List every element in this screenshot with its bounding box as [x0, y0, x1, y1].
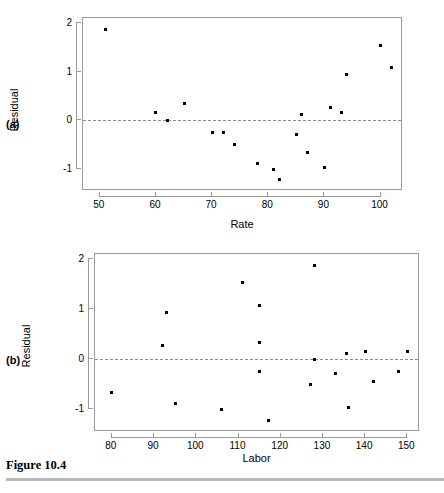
data-point	[295, 133, 298, 136]
panel-b-x-axis-title: Labor	[94, 452, 419, 464]
y-axis-tick-label: 1	[60, 303, 84, 314]
data-point	[397, 370, 400, 373]
y-axis-line	[88, 258, 89, 408]
data-point	[300, 113, 303, 116]
figure-caption: Figure 10.4	[6, 458, 66, 473]
data-point	[220, 408, 223, 411]
y-axis-line	[76, 22, 77, 168]
data-point	[345, 73, 348, 76]
x-axis-tick-label: 90	[308, 199, 338, 210]
data-point	[390, 66, 393, 69]
x-axis-tick-mark	[364, 433, 365, 438]
x-axis-tick-mark	[195, 433, 196, 438]
x-axis-tick-mark	[153, 433, 154, 438]
y-axis-tick-label: 0	[60, 353, 84, 364]
x-axis-tick-label: 120	[265, 440, 295, 451]
data-point	[104, 28, 107, 31]
panel-b-zero-reference-line	[95, 359, 418, 360]
data-point	[258, 341, 261, 344]
x-axis-tick-label: 140	[349, 440, 379, 451]
data-point	[161, 344, 164, 347]
x-axis-line	[111, 437, 406, 438]
x-axis-tick-mark	[406, 433, 407, 438]
y-axis-tick-label: 2	[60, 253, 84, 264]
x-axis-tick-label: 90	[138, 440, 168, 451]
data-point	[256, 162, 259, 165]
data-point	[258, 370, 261, 373]
y-axis-tick-mark	[88, 408, 93, 409]
data-point	[379, 44, 382, 47]
data-point	[154, 111, 157, 114]
data-point	[329, 106, 332, 109]
figure-10-4: (a) Residual -1012 5060708090100 Rate (b…	[0, 0, 444, 493]
panel-b-plot-area	[94, 253, 419, 431]
data-point	[258, 304, 261, 307]
x-axis-tick-label: 50	[84, 199, 114, 210]
panel-a-y-axis-title: Residual	[8, 70, 20, 150]
data-point	[233, 143, 236, 146]
x-axis-tick-mark	[280, 433, 281, 438]
y-axis-tick-label: -1	[60, 403, 84, 414]
data-point	[166, 119, 169, 122]
x-axis-tick-mark	[155, 192, 156, 197]
x-axis-tick-label: 100	[180, 440, 210, 451]
x-axis-tick-label: 100	[365, 199, 395, 210]
x-axis-tick-mark	[211, 192, 212, 197]
y-axis-tick-mark	[76, 168, 81, 169]
data-point	[364, 350, 367, 353]
data-point	[334, 372, 337, 375]
x-axis-tick-label: 70	[196, 199, 226, 210]
y-axis-tick-mark	[76, 71, 81, 72]
y-axis-tick-label: -1	[48, 163, 72, 174]
panel-b-tag: (b)	[6, 354, 20, 366]
x-axis-tick-mark	[99, 192, 100, 197]
x-axis-tick-mark	[380, 192, 381, 197]
data-point	[347, 406, 350, 409]
y-axis-tick-label: 2	[48, 16, 72, 27]
x-axis-tick-label: 130	[307, 440, 337, 451]
data-point	[313, 358, 316, 361]
data-point	[165, 311, 168, 314]
x-axis-tick-label: 60	[140, 199, 170, 210]
x-axis-tick-mark	[322, 433, 323, 438]
data-point	[372, 380, 375, 383]
y-axis-tick-mark	[88, 358, 93, 359]
x-axis-tick-label: 80	[252, 199, 282, 210]
x-axis-tick-mark	[238, 433, 239, 438]
x-axis-tick-mark	[323, 192, 324, 197]
data-point	[313, 264, 316, 267]
panel-a: (a) Residual -1012 5060708090100 Rate	[0, 0, 444, 240]
caption-divider	[6, 478, 444, 481]
data-point	[183, 102, 186, 105]
y-axis-tick-mark	[88, 308, 93, 309]
data-point	[241, 281, 244, 284]
x-axis-tick-label: 80	[96, 440, 126, 451]
data-point	[174, 402, 177, 405]
data-point	[222, 131, 225, 134]
data-point	[278, 178, 281, 181]
data-point	[110, 391, 113, 394]
x-axis-line	[99, 196, 380, 197]
data-point	[306, 151, 309, 154]
data-point	[406, 350, 409, 353]
data-point	[340, 111, 343, 114]
y-axis-tick-mark	[76, 119, 81, 120]
y-axis-tick-mark	[88, 258, 93, 259]
panel-a-plot-area	[82, 17, 402, 190]
x-axis-tick-mark	[111, 433, 112, 438]
data-point	[267, 419, 270, 422]
y-axis-tick-mark	[76, 22, 81, 23]
y-axis-tick-label: 0	[48, 114, 72, 125]
x-axis-tick-label: 110	[223, 440, 253, 451]
panel-a-x-axis-title: Rate	[82, 218, 402, 230]
data-point	[309, 383, 312, 386]
data-point	[272, 168, 275, 171]
y-axis-tick-label: 1	[48, 65, 72, 76]
panel-b: (b) Residual -1012 809010011012013014015…	[0, 240, 444, 455]
x-axis-tick-mark	[267, 192, 268, 197]
panel-a-zero-reference-line	[83, 120, 401, 121]
data-point	[323, 166, 326, 169]
data-point	[211, 131, 214, 134]
panel-b-y-axis-title: Residual	[20, 306, 32, 386]
x-axis-tick-label: 150	[391, 440, 421, 451]
